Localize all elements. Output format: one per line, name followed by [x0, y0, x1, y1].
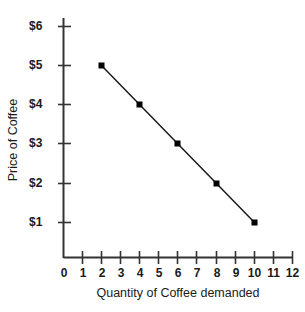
x-tick-label-11: 11	[265, 267, 282, 279]
demand-curve-chart: Price of Coffee $6 $5 $4 $3 $2 $1 0 1 2 …	[0, 0, 305, 312]
data-point-2-5	[99, 63, 105, 69]
x-tick-label-9: 9	[231, 267, 241, 279]
y-tick-label-5: $5	[29, 59, 42, 71]
y-tick-label-4: $4	[29, 98, 42, 110]
x-tick-label-12: 12	[284, 267, 301, 279]
x-tick-label-8: 8	[212, 267, 222, 279]
x-tick-label-3: 3	[116, 267, 126, 279]
x-tick-label-4: 4	[135, 267, 145, 279]
x-tick-label-1: 1	[78, 267, 88, 279]
y-tick-label-3: $3	[29, 137, 42, 149]
data-point-4-4	[137, 102, 143, 108]
x-tick-label-5: 5	[154, 267, 164, 279]
data-point-10-1	[252, 220, 258, 226]
data-point-6-3	[175, 141, 181, 147]
x-tick-label-0: 0	[59, 267, 69, 279]
x-tick-label-7: 7	[192, 267, 202, 279]
x-axis-title: Quantity of Coffee demanded	[63, 287, 293, 300]
x-tick-label-10: 10	[246, 267, 263, 279]
y-axis-title: Price of Coffee	[6, 99, 20, 182]
y-tick-label-2: $2	[29, 177, 42, 189]
x-tick-label-6: 6	[173, 267, 183, 279]
data-point-8-2	[214, 181, 220, 187]
x-tick-label-2: 2	[97, 267, 107, 279]
y-tick-label-6: $6	[29, 20, 42, 32]
y-tick-label-1: $1	[29, 216, 42, 228]
axes-group	[64, 18, 294, 258]
